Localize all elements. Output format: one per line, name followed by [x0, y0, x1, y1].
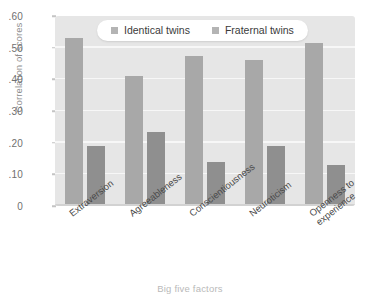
legend-label-fraternal: Fraternal twins [225, 24, 294, 36]
legend-item-identical[interactable]: Identical twins [111, 24, 190, 36]
bar-identical [245, 60, 263, 206]
legend-swatch-fraternal-icon [212, 27, 219, 34]
bar-identical [65, 38, 83, 206]
bar-chart: Correlation of scores 0.10.20.30.40.50.6… [0, 0, 380, 305]
y-axis-tick-label: .30 [0, 106, 23, 117]
y-axis-tick-label: .50 [0, 42, 23, 53]
y-axis-tick-label: .20 [0, 137, 23, 148]
legend: Identical twins Fraternal twins [97, 20, 308, 41]
y-axis-tick-label: .40 [0, 74, 23, 85]
y-axis-tick-label: .10 [0, 169, 23, 180]
bar-identical [185, 56, 203, 206]
legend-label-identical: Identical twins [124, 24, 190, 36]
bar-identical [305, 43, 323, 206]
plot-area [55, 16, 355, 206]
bar-identical [125, 76, 143, 206]
y-axis-tick-label: 0 [0, 201, 23, 212]
y-axis-tick-label: .60 [0, 11, 23, 22]
x-axis-title: Big five factors [0, 283, 380, 294]
legend-item-fraternal[interactable]: Fraternal twins [212, 24, 294, 36]
legend-swatch-identical-icon [111, 27, 118, 34]
plot-inner [55, 16, 355, 206]
